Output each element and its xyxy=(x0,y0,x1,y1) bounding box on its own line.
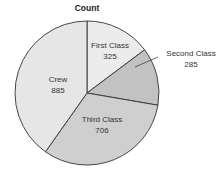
label-third-class: Third Class 706 xyxy=(78,114,126,136)
label-crew-value: 885 xyxy=(38,85,78,96)
label-second-class: Second Class 285 xyxy=(160,48,222,70)
label-first-class-name: First Class xyxy=(88,40,132,51)
label-crew-name: Crew xyxy=(38,74,78,85)
label-first-class-value: 325 xyxy=(88,51,132,62)
label-first-class: First Class 325 xyxy=(88,40,132,62)
label-crew: Crew 885 xyxy=(38,74,78,96)
label-second-class-name: Second Class xyxy=(160,48,222,59)
label-third-class-value: 706 xyxy=(78,125,126,136)
label-second-class-value: 285 xyxy=(160,59,222,70)
pie-chart xyxy=(0,0,224,175)
label-third-class-name: Third Class xyxy=(78,114,126,125)
